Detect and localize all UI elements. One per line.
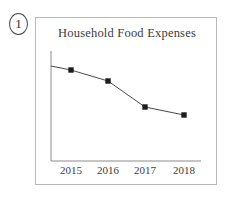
- series-line-household-food-expenses: [51, 66, 184, 115]
- x-tick-label-2017: 2017: [134, 164, 157, 176]
- chart-panel: Household Food Expenses 2015 2016 2017 2…: [35, 17, 217, 185]
- figure-number-marker: 1: [9, 13, 28, 35]
- data-point-marker: [142, 104, 147, 109]
- data-point-marker: [105, 78, 110, 83]
- x-tick-label-2018: 2018: [173, 164, 196, 176]
- x-tick-label-2016: 2016: [97, 164, 120, 176]
- figure-number-label: 1: [15, 16, 22, 31]
- data-point-marker: [68, 67, 73, 72]
- x-tick-label-2015: 2015: [60, 164, 83, 176]
- line-chart-plot: 2015 2016 2017 2018: [36, 18, 218, 186]
- data-point-marker: [181, 112, 186, 117]
